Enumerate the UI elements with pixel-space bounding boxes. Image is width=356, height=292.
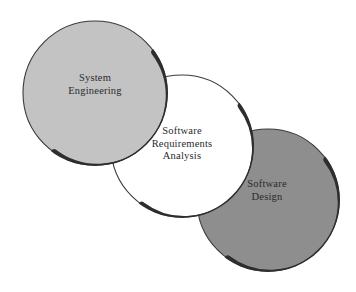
label-software-design: Software Design bbox=[219, 178, 315, 203]
label-software-requirements-analysis-line1: Software bbox=[134, 125, 230, 138]
label-software-design-line1: Software bbox=[219, 178, 315, 191]
label-system-engineering-line1: System bbox=[47, 72, 143, 85]
label-system-engineering: System Engineering bbox=[47, 72, 143, 97]
label-system-engineering-line2: Engineering bbox=[47, 85, 143, 98]
label-software-requirements-analysis-line2: Requirements bbox=[134, 138, 230, 151]
label-software-requirements-analysis: Software Requirements Analysis bbox=[134, 125, 230, 163]
label-software-requirements-analysis-line3: Analysis bbox=[134, 150, 230, 163]
venn-diagram: System Engineering Software Requirements… bbox=[0, 0, 356, 292]
label-software-design-line2: Design bbox=[219, 191, 315, 204]
